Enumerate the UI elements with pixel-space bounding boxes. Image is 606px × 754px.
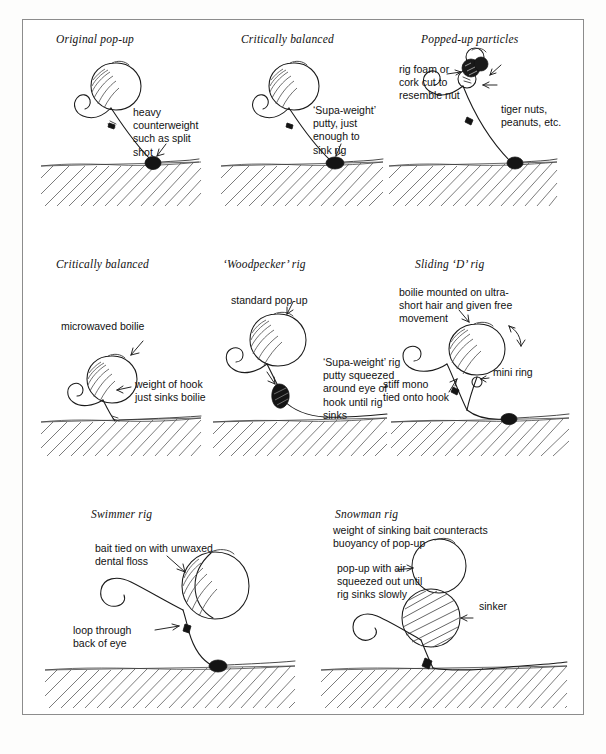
rig-drawing (375, 20, 583, 220)
boilie-on-hair (449, 322, 505, 375)
lake-bed (45, 666, 295, 708)
panel-original-pop-up: Original pop-up heavy counterweight such… (23, 20, 213, 220)
pop-up-boilie (269, 61, 319, 110)
rig-drawing (209, 20, 399, 220)
hook-and-line (68, 383, 119, 421)
lake-bed (41, 418, 201, 456)
arrow-to-particle-label (483, 82, 497, 88)
lake-bed (391, 418, 569, 456)
panel-woodpecker-rig: ‘Woodpecker’ rig standard pop-up ‘Supa-w… (201, 248, 401, 458)
arrow-to-hair-label (459, 310, 469, 322)
lake-bed (389, 162, 557, 206)
arrow-to-loop (155, 624, 179, 630)
arrow-to-counterweight (157, 144, 166, 156)
particle-cluster (458, 48, 488, 88)
rig-drawing (381, 248, 583, 458)
rig-drawing (33, 490, 313, 714)
rig-drawing (23, 20, 213, 220)
hook-and-line (226, 348, 387, 417)
panel-swimmer-rig: Swimmer rig bait tied on with unwaxed de… (33, 490, 313, 714)
arrow-to-boilie (131, 341, 143, 355)
pop-up-boilie (91, 61, 141, 110)
lake-bed (41, 162, 201, 206)
hook-and-line (424, 71, 511, 162)
panel-sliding-d-rig: Sliding ‘D’ rig boilie mounted on ultra-… (381, 248, 583, 458)
arrow-to-floss (167, 556, 185, 572)
lake-bed (213, 418, 387, 456)
lake-bed (321, 666, 567, 708)
rig-drawing (23, 248, 213, 458)
plate-border: Original pop-up heavy counterweight such… (22, 19, 584, 715)
bait-tied-with-floss (182, 550, 249, 619)
putty-at-eye (272, 384, 289, 408)
free-movement-arrows (509, 326, 525, 346)
arrow-to-hook-weight (117, 386, 131, 393)
arrow-to-putty (267, 372, 275, 384)
hook-and-line (101, 578, 213, 666)
panel-popped-up-particles: Popped-up particles rig foam or cork cut… (375, 20, 583, 220)
rig-drawing (201, 248, 401, 458)
panel-critically-balanced-2: Critically balanced microwaved boilie we… (23, 248, 213, 458)
hook-and-line (253, 95, 331, 161)
rig-drawing (313, 490, 583, 714)
arrow-to-particles (490, 65, 501, 75)
illustration-plate: Original pop-up heavy counterweight such… (0, 0, 606, 754)
sinker-ball (402, 589, 460, 647)
microwaved-boilie (87, 354, 137, 403)
arrow-to-sinker (461, 615, 473, 621)
hook-and-line (75, 95, 151, 160)
hook-and-stiff-mono (403, 346, 505, 419)
arrow-to-putty (336, 144, 342, 156)
standard-pop-up-boilie (250, 312, 306, 366)
arrow-to-pop-up (287, 302, 293, 314)
pop-up-ball (412, 538, 466, 593)
panel-critically-balanced-1: Critically balanced ‘Supa-weight’ putty,… (209, 20, 399, 220)
panel-snowman-rig: Snowman rig weight of sinking bait count… (313, 490, 583, 714)
lake-bed (221, 162, 383, 206)
arrow-to-pop-up (397, 565, 413, 571)
